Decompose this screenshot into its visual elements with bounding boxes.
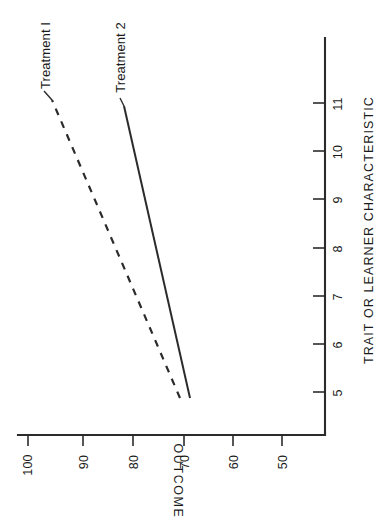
x-tick-label-5: 5 — [331, 383, 345, 403]
y-tick-label-60: 60 — [227, 451, 241, 473]
x-tick-label-11: 11 — [331, 92, 345, 116]
x-axis-ticks — [313, 103, 325, 392]
x-tick-label-8: 8 — [331, 239, 345, 259]
chart-figure: 5 6 7 8 9 10 11 50 60 70 80 90 100 TRAIT… — [0, 0, 381, 523]
x-tick-label-10: 10 — [331, 140, 345, 164]
series-label-treatment-2: Treatment 2 — [113, 8, 128, 108]
series-line-treatment-1 — [52, 100, 180, 398]
x-axis-title: TRAIT OR LEARNER CHARACTERISTIC — [362, 114, 376, 364]
y-axis-title: OUTCOME — [171, 426, 185, 523]
y-tick-label-90: 90 — [77, 451, 91, 473]
chart-plot-area — [0, 0, 381, 523]
x-tick-label-6: 6 — [331, 335, 345, 355]
y-tick-label-50: 50 — [276, 451, 290, 473]
series-label-treatment-1: Treatment I — [38, 6, 53, 106]
y-tick-label-100: 100 — [21, 450, 35, 480]
x-tick-label-7: 7 — [331, 287, 345, 307]
y-tick-label-80: 80 — [127, 451, 141, 473]
x-tick-label-9: 9 — [331, 190, 345, 210]
series-line-treatment-2 — [124, 106, 190, 398]
y-axis-ticks — [28, 435, 282, 446]
